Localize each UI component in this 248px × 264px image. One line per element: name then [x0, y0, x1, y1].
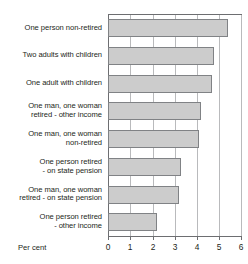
- tick-label-2: 2: [143, 242, 163, 252]
- category-label-line: - on state pension: [2, 167, 102, 176]
- bar: [108, 158, 181, 176]
- bar-row: One adult with children: [0, 70, 248, 98]
- category-label: Two adults with children: [2, 51, 102, 60]
- category-label-line: Two adults with children: [2, 51, 102, 60]
- bar: [108, 19, 228, 37]
- tick-5: [219, 236, 220, 240]
- bar-rows: One person non-retiredTwo adults with ch…: [0, 14, 248, 236]
- bar-row: One person retired- on state pension: [0, 153, 248, 181]
- bar-row: One man, one womanretired - on state pen…: [0, 181, 248, 209]
- tick-label-5: 5: [209, 242, 229, 252]
- bar-row: One man, one womannon-retired: [0, 125, 248, 153]
- category-label-line: retired - other income: [2, 111, 102, 120]
- category-label: One man, one womannon-retired: [2, 130, 102, 147]
- category-label: One man, one womanretired - other income: [2, 102, 102, 119]
- tick-1: [130, 236, 131, 240]
- tick-label-4: 4: [187, 242, 207, 252]
- category-label: One person retired- other income: [2, 213, 102, 230]
- bar-row: One person retired- other income: [0, 208, 248, 236]
- category-label: One person retired- on state pension: [2, 158, 102, 175]
- tick-0: [108, 236, 109, 240]
- plot-area: One person non-retiredTwo adults with ch…: [0, 0, 248, 264]
- bar-chart: One person non-retiredTwo adults with ch…: [0, 0, 248, 264]
- category-label: One adult with children: [2, 79, 102, 88]
- tick-label-0: 0: [98, 242, 118, 252]
- tick-label-6: 6: [231, 242, 248, 252]
- bar: [108, 186, 179, 204]
- bar: [108, 47, 214, 65]
- category-label-line: non-retired: [2, 139, 102, 148]
- tick-label-1: 1: [120, 242, 140, 252]
- category-label-line: One adult with children: [2, 79, 102, 88]
- tick-2: [153, 236, 154, 240]
- bar: [108, 130, 199, 148]
- bar: [108, 213, 157, 231]
- bar-row: One man, one womanretired - other income: [0, 97, 248, 125]
- axis-caption: Per cent: [18, 243, 46, 252]
- bar: [108, 75, 212, 93]
- tick-label-3: 3: [165, 242, 185, 252]
- tick-4: [197, 236, 198, 240]
- bar-row: One person non-retired: [0, 14, 248, 42]
- category-label-line: - other income: [2, 222, 102, 231]
- tick-3: [175, 236, 176, 240]
- category-label-line: One person non-retired: [2, 24, 102, 33]
- bar-row: Two adults with children: [0, 42, 248, 70]
- category-label-line: retired - on state pension: [2, 194, 102, 203]
- category-label: One man, one womanretired - on state pen…: [2, 186, 102, 203]
- category-label: One person non-retired: [2, 24, 102, 33]
- tick-6: [241, 236, 242, 240]
- bar: [108, 102, 201, 120]
